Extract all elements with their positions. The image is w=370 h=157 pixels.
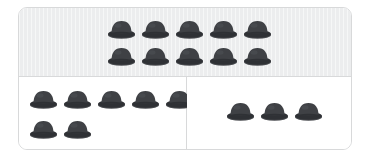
bowler-hat-icon (63, 118, 92, 140)
bowler-hat-icon (294, 100, 323, 122)
hat-item (173, 17, 207, 42)
hat-item (129, 87, 163, 112)
hat-item (61, 117, 95, 142)
bowler-hat-icon (243, 45, 272, 67)
hat-item (27, 87, 61, 112)
bowler-hat-icon (107, 18, 136, 40)
bowler-hat-icon (175, 45, 204, 67)
bowler-hat-icon (29, 88, 58, 110)
bowler-hat-icon (175, 18, 204, 40)
hat-item (105, 17, 139, 42)
bowler-hat-icon (107, 45, 136, 67)
hat-item (139, 44, 173, 69)
bowler-hat-icon (226, 100, 255, 122)
hat-item (241, 17, 275, 42)
hat-item (207, 44, 241, 69)
top-panel (19, 8, 351, 77)
bottom-left-panel-hat-rows (19, 77, 186, 149)
bowler-hat-icon (209, 18, 238, 40)
bowler-hat-icon (141, 18, 170, 40)
canvas (0, 0, 370, 157)
hat-item (173, 44, 207, 69)
hat-item (258, 99, 292, 124)
bowler-hat-icon (29, 118, 58, 140)
top-panel-hat-rows (19, 8, 351, 76)
bowler-hat-icon (243, 18, 272, 40)
hat-item (95, 87, 129, 112)
hat-row (224, 99, 326, 124)
bowler-hat-icon (97, 88, 126, 110)
bottom-right-panel-hat-rows (187, 77, 351, 149)
bowler-hat-icon (141, 45, 170, 67)
hat-row (105, 44, 275, 69)
bottom-left-panel (19, 77, 187, 149)
hat-row (27, 87, 197, 112)
hat-item (292, 99, 326, 124)
hat-item (241, 44, 275, 69)
bowler-hat-icon (63, 88, 92, 110)
diagram-frame (18, 7, 352, 150)
bottom-right-panel (187, 77, 351, 149)
hat-row (27, 117, 95, 142)
hat-item (61, 87, 95, 112)
bowler-hat-icon (209, 45, 238, 67)
hat-item (105, 44, 139, 69)
hat-row (105, 17, 275, 42)
hat-item (139, 17, 173, 42)
bowler-hat-icon (260, 100, 289, 122)
bowler-hat-icon (131, 88, 160, 110)
hat-item (27, 117, 61, 142)
hat-item (224, 99, 258, 124)
hat-item (207, 17, 241, 42)
